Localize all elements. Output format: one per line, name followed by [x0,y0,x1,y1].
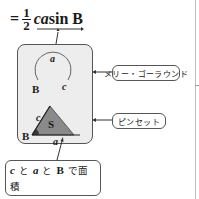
merry-arrowhead-icon [92,70,96,74]
page-margin-tick [195,85,199,86]
triangle-label-a: a [53,136,58,147]
note-line-1: c と a と B で面積 [10,162,96,195]
note-var-b: B [57,164,65,176]
note-to-1: と [19,165,30,176]
formula-pointer [56,32,58,44]
explanation-note: c と a と B で面積 S をはさむ。 [5,160,101,196]
triangle-label-s: S [48,118,54,130]
vertex-label-b-top: B [32,83,40,95]
note-var-c: c [10,164,15,176]
merry-go-round-callout: メリー・ゴーラウンド [112,65,180,81]
note-var-a: a [33,164,39,176]
page-margin-rule [195,0,196,199]
note-var-s: S [10,197,17,199]
note-to-2: と [42,165,53,176]
note-sandwich-text: をはさむ。 [20,198,73,199]
underline-arrowhead-icon [81,27,84,31]
note-arrowhead-icon [61,137,64,142]
triangle-label-c: c [36,112,41,123]
tweezers-arrowhead-icon [92,118,96,122]
triangle-vertex-b: B [22,130,30,142]
tweezers-callout: ピンセット [112,113,166,129]
arc-label-c: c [62,81,67,92]
arc-label-a: a [50,53,55,64]
note-line-2: S をはさむ。 [10,195,96,199]
